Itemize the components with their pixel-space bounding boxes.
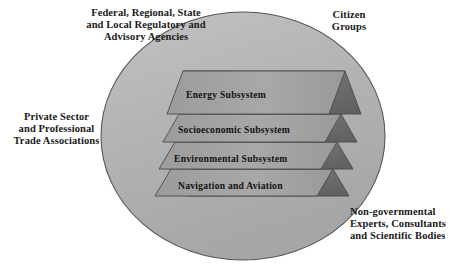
layer-label-socioeconomic: Socioeconomic Subsystem: [178, 124, 290, 135]
stakeholder-label-non-governmental: Non-governmental Experts, Consultants an…: [350, 206, 462, 243]
diagram-canvas: Energy Subsystem Socioeconomic Subsystem…: [0, 0, 462, 272]
stakeholder-label-regulatory: Federal, Regional, State and Local Regul…: [58, 7, 234, 44]
layer-label-energy: Energy Subsystem: [186, 89, 266, 100]
layer-label-navigation: Navigation and Aviation: [178, 180, 283, 191]
stakeholder-label-citizen-groups: Citizen Groups: [312, 9, 386, 33]
layer-label-environmental: Environmental Subsystem: [174, 153, 288, 164]
stakeholder-label-private-sector: Private Sector and Professional Trade As…: [4, 111, 109, 148]
